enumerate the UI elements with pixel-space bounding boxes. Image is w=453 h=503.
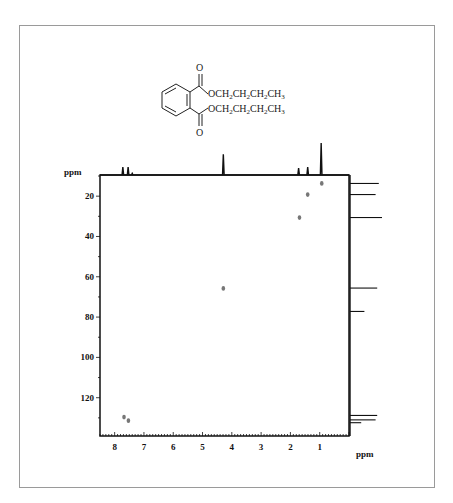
x-tick-label: 8: [112, 442, 117, 452]
cross-peak: [122, 415, 126, 420]
carbonyl-oxygen-bottom: O: [196, 127, 203, 138]
y-tick-label: 100: [81, 352, 95, 362]
carbonyl-oxygen-top: O: [196, 62, 203, 73]
x-tick-label: 5: [200, 442, 205, 452]
y-tick-label: 120: [81, 393, 95, 403]
y-tick-label: 20: [85, 191, 95, 201]
x-tick-label: 7: [142, 442, 147, 452]
x-axis: 87654321: [100, 432, 349, 452]
cross-peak: [127, 418, 131, 423]
cross-peak: [306, 192, 310, 197]
molecule-structure: [162, 74, 208, 126]
ester-chain-bottom: OCH2CH2CH2CH3: [208, 103, 285, 116]
y-axis: 20406080100120: [81, 176, 101, 418]
x-axis-unit-label: ppm: [356, 449, 374, 459]
ester-chain-top: OCH2CH2CH2CH3: [208, 88, 285, 101]
proton-projection: [100, 143, 349, 175]
plot-area: [100, 175, 349, 436]
cross-peak: [222, 286, 226, 291]
y-axis-unit-label: ppm: [64, 167, 82, 177]
x-tick-label: 2: [288, 442, 293, 452]
y-tick-label: 60: [85, 272, 95, 282]
x-tick-label: 6: [171, 442, 176, 452]
y-tick-label: 80: [85, 312, 95, 322]
nmr-2d-spectrum: O O OCH2CH2CH2CH3 OCH2CH2CH2CH3 87654321…: [0, 0, 453, 503]
x-tick-label: 3: [259, 442, 264, 452]
x-tick-label: 1: [317, 442, 322, 452]
cross-peak: [298, 215, 302, 220]
cross-peaks: [122, 181, 323, 423]
cross-peak: [320, 181, 324, 186]
carbon-projection: [350, 175, 382, 436]
y-tick-label: 40: [85, 231, 95, 241]
x-tick-label: 4: [230, 442, 235, 452]
